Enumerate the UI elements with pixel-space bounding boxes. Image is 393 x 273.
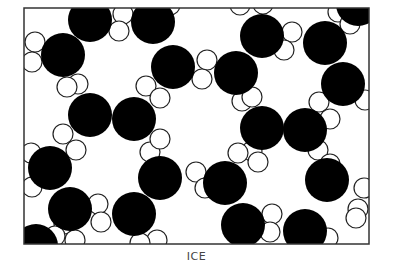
hydrogen-atom: [248, 152, 268, 172]
hydrogen-atom: [197, 50, 217, 70]
oxygen-atom: [214, 51, 258, 95]
oxygen-atom: [131, 0, 175, 44]
oxygen-atom: [48, 187, 92, 231]
oxygen-atom: [305, 158, 349, 202]
hydrogen-atom: [53, 124, 73, 144]
hydrogen-atom: [282, 22, 302, 42]
hydrogen-atom: [150, 88, 170, 108]
diagram-caption: ICE: [0, 250, 393, 263]
oxygen-atom: [41, 33, 85, 77]
oxygen-atom: [28, 146, 72, 190]
hydrogen-atom: [228, 143, 248, 163]
atoms-layer: [14, 0, 380, 268]
hydrogen-atom: [91, 212, 111, 232]
oxygen-atom: [68, 93, 112, 137]
oxygen-atom: [221, 203, 265, 247]
hydrogen-atom: [109, 21, 129, 41]
oxygen-atom: [321, 62, 365, 106]
ice-molecular-structure-diagram: [0, 0, 393, 273]
oxygen-atom: [283, 209, 327, 253]
oxygen-atom: [240, 14, 284, 58]
oxygen-atom: [203, 161, 247, 205]
hydrogen-atom: [65, 230, 85, 250]
oxygen-atom: [138, 156, 182, 200]
hydrogen-atom: [346, 208, 366, 228]
hydrogen-atom: [253, 0, 273, 14]
hydrogen-atom: [57, 77, 77, 97]
hydrogen-atom: [354, 178, 374, 198]
hydrogen-atom: [262, 204, 282, 224]
hydrogen-atom: [150, 129, 170, 149]
oxygen-atom: [112, 97, 156, 141]
oxygen-atom: [283, 108, 327, 152]
oxygen-atom: [303, 21, 347, 65]
oxygen-atom: [240, 106, 284, 150]
hydrogen-atom: [192, 69, 212, 89]
oxygen-atom: [68, 0, 112, 42]
oxygen-atom: [151, 45, 195, 89]
hydrogen-atom: [22, 52, 42, 72]
oxygen-atom: [112, 192, 156, 236]
